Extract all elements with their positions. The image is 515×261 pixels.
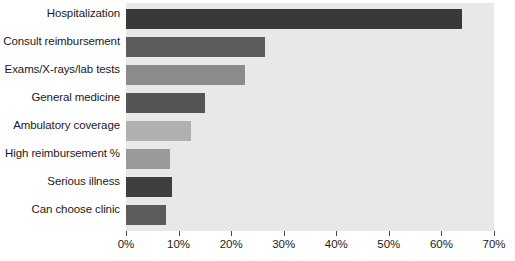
x-tick-mark <box>231 231 232 236</box>
x-tick-label: 0% <box>104 238 148 250</box>
x-tick-mark <box>284 231 285 236</box>
x-tick-label: 70% <box>472 238 515 250</box>
x-tick-mark <box>441 231 442 236</box>
category-axis: Hospitalization Consult reimbursement Ex… <box>0 3 120 231</box>
plot-area <box>126 3 494 231</box>
x-tick-label: 60% <box>419 238 463 250</box>
category-label: Consult reimbursement <box>0 31 120 51</box>
bar[interactable] <box>126 121 191 141</box>
category-label: Serious illness <box>0 171 120 191</box>
bar[interactable] <box>126 93 205 113</box>
x-tick-mark <box>494 231 495 236</box>
x-tick-label: 30% <box>262 238 306 250</box>
x-tick-mark <box>336 231 337 236</box>
bar[interactable] <box>126 177 172 197</box>
bar[interactable] <box>126 65 245 85</box>
x-tick-label: 20% <box>209 238 253 250</box>
bar[interactable] <box>126 9 462 29</box>
bar[interactable] <box>126 149 170 169</box>
x-tick-mark <box>179 231 180 236</box>
x-axis: 0% 10% 20% 30% 40% 50% 60% 70% <box>126 231 494 261</box>
category-label: Exams/X-rays/lab tests <box>0 59 120 79</box>
bar[interactable] <box>126 205 166 225</box>
x-tick-mark <box>126 231 127 236</box>
category-label: Hospitalization <box>0 3 120 23</box>
x-tick-label: 10% <box>157 238 201 250</box>
bar[interactable] <box>126 37 265 57</box>
bar-chart: Hospitalization Consult reimbursement Ex… <box>0 0 515 261</box>
x-tick-mark <box>389 231 390 236</box>
category-label: Can choose clinic <box>0 199 120 219</box>
x-tick-label: 50% <box>367 238 411 250</box>
category-label: General medicine <box>0 87 120 107</box>
category-label: High reimbursement % <box>0 143 120 163</box>
x-tick-label: 40% <box>314 238 358 250</box>
category-label: Ambulatory coverage <box>0 115 120 135</box>
